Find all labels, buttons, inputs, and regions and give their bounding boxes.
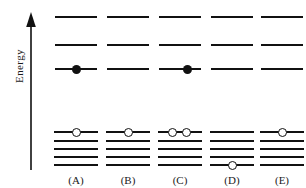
- upper-energy-level: [261, 44, 303, 46]
- upper-energy-level: [159, 68, 201, 70]
- lower-energy-level: [210, 140, 254, 142]
- lower-energy-level: [210, 156, 254, 158]
- option-label-d: (D): [206, 174, 258, 186]
- lower-energy-level: [106, 164, 150, 166]
- lower-energy-level: [106, 148, 150, 150]
- lower-energy-level: [158, 164, 202, 166]
- option-column-e[interactable]: (E): [256, 0, 306, 188]
- lower-energy-level: [158, 131, 202, 133]
- lower-energy-level: [158, 148, 202, 150]
- upper-energy-level: [107, 44, 149, 46]
- lower-energy-level: [260, 156, 304, 158]
- filled-electron-marker: [72, 65, 81, 74]
- lower-energy-level: [260, 140, 304, 142]
- upper-energy-level: [211, 16, 253, 18]
- option-column-b[interactable]: (B): [102, 0, 154, 188]
- open-electron-marker: [124, 128, 133, 137]
- lower-energy-level: [260, 164, 304, 166]
- upper-energy-level: [107, 68, 149, 70]
- option-columns: (A)(B)(C)(D)(E): [44, 0, 306, 188]
- lower-energy-level: [106, 156, 150, 158]
- option-label-b: (B): [102, 174, 154, 186]
- lower-energy-level: [158, 140, 202, 142]
- lower-energy-level: [54, 140, 98, 142]
- lower-energy-level: [260, 148, 304, 150]
- open-electron-marker: [72, 128, 81, 137]
- upper-energy-level: [55, 44, 97, 46]
- lower-energy-level: [54, 164, 98, 166]
- option-label-a: (A): [50, 174, 102, 186]
- option-column-a[interactable]: (A): [50, 0, 102, 188]
- open-electron-marker: [182, 128, 191, 137]
- open-electron-marker: [228, 161, 237, 170]
- upper-energy-level: [159, 44, 201, 46]
- energy-axis: Energy: [0, 0, 44, 188]
- lower-energy-level: [106, 140, 150, 142]
- lower-energy-level: [158, 156, 202, 158]
- lower-energy-level: [54, 156, 98, 158]
- energy-level-diagram: Energy (A)(B)(C)(D)(E): [0, 0, 306, 188]
- upper-energy-level: [211, 68, 253, 70]
- open-electron-marker: [168, 128, 177, 137]
- filled-electron-marker: [183, 65, 192, 74]
- upper-energy-level: [211, 44, 253, 46]
- upper-energy-level: [55, 16, 97, 18]
- option-column-c[interactable]: (C): [154, 0, 206, 188]
- upper-energy-level: [107, 16, 149, 18]
- option-label-c: (C): [154, 174, 206, 186]
- lower-energy-level: [54, 148, 98, 150]
- option-column-d[interactable]: (D): [206, 0, 258, 188]
- upper-energy-level: [261, 68, 303, 70]
- option-label-e: (E): [256, 174, 306, 186]
- lower-energy-level: [210, 148, 254, 150]
- lower-energy-level: [210, 131, 254, 133]
- open-electron-marker: [278, 128, 287, 137]
- upper-energy-level: [261, 16, 303, 18]
- energy-axis-label: Energy: [13, 31, 25, 101]
- upper-energy-level: [159, 16, 201, 18]
